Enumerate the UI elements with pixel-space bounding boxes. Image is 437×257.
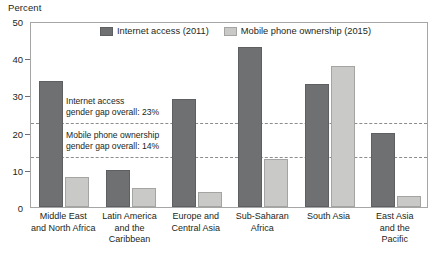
bar — [65, 177, 89, 207]
y-axis-tick-mark — [25, 171, 30, 172]
legend-swatch-icon-internet-access — [100, 27, 113, 36]
x-axis-label-line: Central Asia — [163, 223, 229, 235]
x-axis-label-line: Africa — [229, 223, 295, 235]
legend-swatch-icon-mobile-phone — [224, 27, 237, 36]
bar — [198, 192, 222, 207]
y-axis-tick-label: 0 — [1, 203, 23, 214]
x-axis-label-line: East Asia — [362, 211, 428, 223]
annotation-line: gender gap overall: 14% — [66, 141, 159, 152]
chart-legend: Internet access (2011) Mobile phone owne… — [100, 26, 371, 36]
annotation-line: Mobile phone ownership — [66, 130, 159, 141]
x-axis-label-line: and the — [96, 223, 162, 235]
y-axis-tick-mark — [25, 96, 30, 97]
x-axis-label-line: Caribbean — [96, 234, 162, 246]
bar — [172, 99, 196, 207]
y-axis-tick-label: 20 — [1, 128, 23, 139]
x-axis-label: Sub-SaharanAfrica — [229, 211, 295, 234]
bar — [397, 196, 421, 207]
x-axis-label-line: and North Africa — [30, 223, 96, 235]
x-axis-label-line: Middle East — [30, 211, 96, 223]
x-axis-label: East Asiaand thePacific — [362, 211, 428, 246]
bar — [264, 159, 288, 207]
bar — [106, 170, 130, 207]
y-axis-tick-label: 50 — [1, 17, 23, 28]
y-axis-tick-mark — [25, 59, 30, 60]
legend-label-mobile-phone: Mobile phone ownership (2015) — [241, 26, 371, 36]
bar — [238, 47, 262, 207]
legend-label-internet-access: Internet access (2011) — [117, 26, 209, 36]
annotation-internet-access-gap: Internet access gender gap overall: 23% — [66, 96, 159, 118]
x-axis-label: Europe andCentral Asia — [163, 211, 229, 234]
annotation-mobile-phone-gap: Mobile phone ownership gender gap overal… — [66, 130, 159, 152]
annotation-line: Internet access — [66, 96, 159, 107]
x-axis-label-line: Pacific — [362, 234, 428, 246]
y-axis-tick-mark — [25, 134, 30, 135]
x-axis-category-labels: Middle Eastand North AfricaLatin America… — [30, 211, 428, 257]
x-axis-label: South Asia — [295, 211, 361, 223]
x-axis-label-line: Latin America — [96, 211, 162, 223]
x-axis-label-line: and the — [362, 223, 428, 235]
annotation-line: gender gap overall: 23% — [66, 107, 159, 118]
x-axis-label: Middle Eastand North Africa — [30, 211, 96, 234]
x-axis-label-line: Sub-Saharan — [229, 211, 295, 223]
y-axis-title: Percent — [8, 2, 41, 13]
bar — [305, 84, 329, 207]
bar — [39, 81, 63, 207]
bar — [331, 66, 355, 207]
bar — [132, 188, 156, 207]
gender-gap-bar-chart: Percent 01020304050 Internet access (201… — [0, 0, 437, 257]
y-axis-tick-label: 30 — [1, 91, 23, 102]
x-axis-label: Latin Americaand theCaribbean — [96, 211, 162, 246]
x-axis-label-line: Europe and — [163, 211, 229, 223]
legend-item-internet-access: Internet access (2011) — [100, 26, 209, 36]
legend-item-mobile-phone: Mobile phone ownership (2015) — [224, 26, 371, 36]
x-axis-label-line: South Asia — [295, 211, 361, 223]
y-axis-tick-label: 40 — [1, 54, 23, 65]
y-axis-tick-label: 10 — [1, 165, 23, 176]
bar — [371, 133, 395, 207]
